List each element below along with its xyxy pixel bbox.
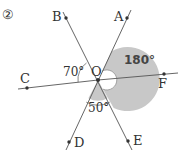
point-A <box>125 16 128 19</box>
point-B <box>64 16 67 19</box>
point-D <box>67 140 70 143</box>
angle-diagram: ② O A B C D E F 70° 180° 50° <box>0 0 183 159</box>
ray-OC <box>18 80 98 89</box>
point-E <box>126 139 129 142</box>
problem-number: ② <box>2 7 14 22</box>
angle-label-70: 70° <box>63 65 84 79</box>
angle-label-50: 50° <box>88 101 109 115</box>
label-D: D <box>74 135 84 150</box>
label-C: C <box>20 71 30 86</box>
label-A: A <box>113 9 124 24</box>
label-E: E <box>133 133 143 148</box>
label-F: F <box>158 76 167 91</box>
point-C <box>25 86 28 89</box>
angle-label-180: 180° <box>124 53 155 67</box>
label-B: B <box>52 9 62 24</box>
label-O: O <box>91 64 102 79</box>
